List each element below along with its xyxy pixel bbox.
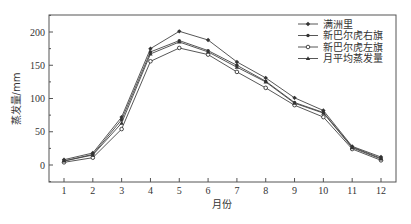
y-tick-label: 0	[40, 160, 45, 171]
legend-item: 满洲里	[298, 19, 353, 30]
y-axis-title: 蒸发量/mm	[10, 73, 22, 126]
y-tick-label: 50	[35, 126, 45, 137]
y-tick-label: 100	[30, 93, 45, 104]
x-tick-label: 6	[206, 185, 211, 196]
x-tick-label: 4	[148, 185, 153, 196]
legend-item: 月平均蒸发量	[298, 52, 383, 64]
x-tick-label: 7	[234, 185, 239, 196]
x-tick-label: 1	[62, 185, 67, 196]
x-tick-label: 8	[263, 185, 268, 196]
x-tick-label: 9	[292, 185, 297, 196]
legend-label: 新巴尔虎右旗	[323, 29, 383, 41]
x-tick-label: 10	[318, 185, 328, 196]
y-tick-label: 150	[30, 60, 45, 71]
legend-label: 新巴尔虎左旗	[323, 41, 383, 53]
legend-label: 月平均蒸发量	[323, 52, 383, 64]
legend-item: 新巴尔虎右旗	[298, 29, 383, 41]
x-axis: 123456789101112	[62, 178, 387, 196]
y-tick-label: 200	[30, 27, 45, 38]
y-axis: 050100150200	[30, 15, 53, 181]
legend-label: 满洲里	[323, 19, 353, 30]
x-tick-label: 2	[90, 185, 95, 196]
x-tick-label: 3	[119, 185, 124, 196]
legend: 满洲里新巴尔虎右旗新巴尔虎左旗月平均蒸发量	[298, 19, 383, 65]
x-tick-label: 11	[347, 185, 357, 196]
x-axis-title: 月份	[212, 199, 232, 210]
legend-item: 新巴尔虎左旗	[298, 41, 383, 53]
x-tick-label: 12	[376, 185, 386, 196]
evaporation-line-chart: 050100150200 123456789101112 满洲里新巴尔虎右旗新巴…	[0, 0, 411, 224]
x-tick-label: 5	[177, 185, 182, 196]
